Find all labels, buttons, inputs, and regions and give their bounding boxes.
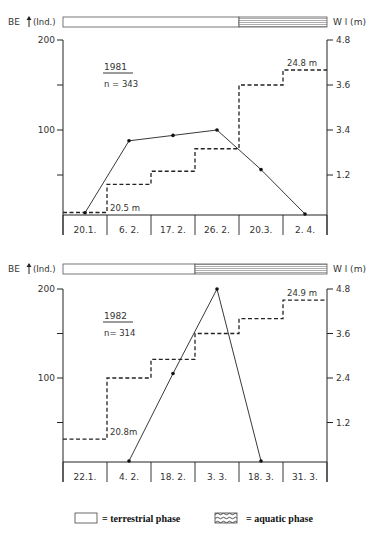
legend: = terrestrial phase = aquatic phase — [75, 513, 313, 524]
aquatic-swatch — [215, 513, 237, 523]
start-level-label: 20.5 m — [110, 203, 140, 213]
left-axis-label: BE — [8, 264, 20, 274]
category-label: 18. 2. — [160, 472, 186, 482]
right-tick-label: 1.2 — [336, 170, 350, 180]
category-label: 18. 3. — [248, 472, 274, 482]
category-label: 2. 4. — [295, 225, 315, 235]
be-data-point — [171, 372, 175, 376]
aquatic-phase-bar — [239, 17, 327, 27]
left-axis-label: BE — [8, 17, 20, 27]
legend-terrestrial-label: = terrestrial phase — [102, 513, 181, 524]
sample-size: n= 314 — [104, 328, 135, 338]
be-line — [129, 289, 261, 461]
figure: BE(Ind.)W l (m)2001004.83.63.41.220.1.6.… — [0, 0, 372, 540]
category-label: 3. 3. — [207, 472, 227, 482]
left-tick-label: 200 — [38, 35, 55, 45]
left-tick-label: 200 — [38, 284, 55, 294]
right-tick-label: 4.8 — [336, 284, 351, 294]
chart-1981: BE(Ind.)W l (m)2001004.83.63.41.220.1.6.… — [8, 16, 366, 235]
be-data-point — [83, 211, 87, 215]
right-axis-label: W l (m) — [333, 264, 366, 274]
left-tick-label: 100 — [38, 373, 55, 383]
left-axis-unit: (Ind.) — [33, 264, 56, 274]
water-level-line — [63, 70, 327, 213]
category-label: 22.1. — [74, 472, 97, 482]
category-label: 20.1. — [74, 225, 97, 235]
category-label: 31. 3. — [292, 472, 318, 482]
right-tick-label: 1.2 — [336, 418, 350, 428]
terrestrial-phase-bar — [63, 264, 195, 274]
aquatic-phase-bar — [195, 264, 327, 274]
terrestrial-phase-bar — [63, 17, 239, 27]
category-label: 26. 2. — [204, 225, 230, 235]
end-level-label: 24.9 m — [287, 288, 317, 298]
year-title: 1982 — [104, 311, 127, 321]
right-tick-label: 3.4 — [336, 125, 351, 135]
be-line — [85, 130, 305, 214]
water-level-line — [63, 300, 327, 439]
right-tick-label: 4.8 — [336, 35, 351, 45]
chart-1982: BE(Ind.)W l (m)2001004.83.62.41.222.1.4.… — [8, 263, 366, 482]
end-level-label: 24.8 m — [287, 58, 317, 68]
year-title: 1981 — [104, 62, 127, 72]
be-data-point — [127, 459, 131, 463]
left-axis-unit: (Ind.) — [33, 17, 56, 27]
category-label: 6. 2. — [119, 225, 139, 235]
be-data-point — [303, 212, 307, 216]
right-axis-label: W l (m) — [333, 17, 366, 27]
category-label: 4. 2. — [119, 472, 139, 482]
start-level-label: 20.8m — [110, 427, 137, 437]
legend-aquatic-label: = aquatic phase — [246, 513, 313, 524]
right-tick-label: 3.6 — [336, 329, 351, 339]
left-tick-label: 100 — [38, 125, 55, 135]
right-tick-label: 3.6 — [336, 80, 351, 90]
terrestrial-swatch — [75, 513, 97, 523]
be-data-point — [127, 139, 131, 143]
be-data-point — [215, 128, 219, 132]
be-data-point — [259, 459, 263, 463]
category-label: 20.3. — [250, 225, 273, 235]
be-data-point — [259, 168, 263, 172]
be-data-point — [171, 134, 175, 138]
sample-size: n = 343 — [104, 79, 138, 89]
category-label: 17. 2. — [160, 225, 186, 235]
right-tick-label: 2.4 — [336, 373, 351, 383]
be-data-point — [215, 287, 219, 291]
